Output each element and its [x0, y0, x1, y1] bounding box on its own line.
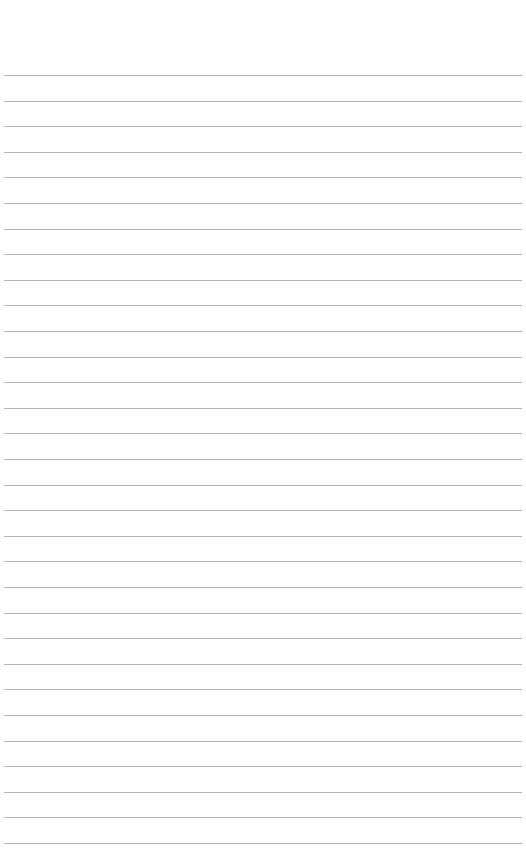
ruled-line	[4, 203, 522, 204]
ruled-line	[4, 741, 522, 742]
ruled-line	[4, 382, 522, 383]
ruled-line	[4, 126, 522, 127]
ruled-line	[4, 664, 522, 665]
ruled-line	[4, 280, 522, 281]
ruled-line	[4, 792, 522, 793]
ruled-line	[4, 177, 522, 178]
ruled-line	[4, 305, 522, 306]
lined-paper-page	[0, 0, 526, 864]
ruled-line	[4, 357, 522, 358]
ruled-line	[4, 587, 522, 588]
ruled-line	[4, 536, 522, 537]
ruled-line	[4, 561, 522, 562]
ruled-line	[4, 433, 522, 434]
ruled-line	[4, 689, 522, 690]
ruled-line	[4, 766, 522, 767]
ruled-line	[4, 817, 522, 818]
ruled-line	[4, 331, 522, 332]
ruled-line	[4, 254, 522, 255]
ruled-line	[4, 638, 522, 639]
ruled-line	[4, 75, 522, 76]
ruled-line	[4, 510, 522, 511]
ruled-line	[4, 485, 522, 486]
ruled-line	[4, 408, 522, 409]
ruled-line	[4, 152, 522, 153]
ruled-line	[4, 843, 522, 844]
ruled-line	[4, 459, 522, 460]
ruled-line	[4, 101, 522, 102]
ruled-line	[4, 229, 522, 230]
ruled-line	[4, 613, 522, 614]
ruled-line	[4, 715, 522, 716]
